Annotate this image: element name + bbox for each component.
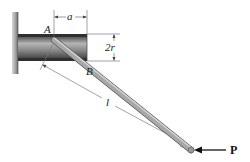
dimension-a: a <box>54 10 87 36</box>
wall <box>12 12 18 74</box>
force-arrow-p: P <box>194 143 237 157</box>
force-label-p: P <box>230 143 237 157</box>
dim-l-label: l <box>106 96 109 108</box>
point-a-label: A <box>43 23 51 35</box>
dim-2r-label: 2r <box>105 41 116 53</box>
dim-a-label: a <box>67 10 73 22</box>
rod <box>54 39 194 154</box>
dimension-2r: 2r <box>87 34 120 61</box>
point-b-label: B <box>86 65 93 77</box>
rod-in-tube-diagram: a 2r l P A B <box>0 0 250 162</box>
